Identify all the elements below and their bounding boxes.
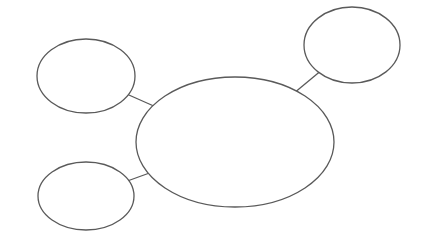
concept-map-diagram [0,0,422,239]
node-subtopic-top-right [304,7,400,83]
node-central-topic [136,77,334,207]
diagram-canvas [0,0,422,239]
node-subtopic-bottom-left [38,162,134,230]
node-subtopic-top-left [37,39,135,113]
